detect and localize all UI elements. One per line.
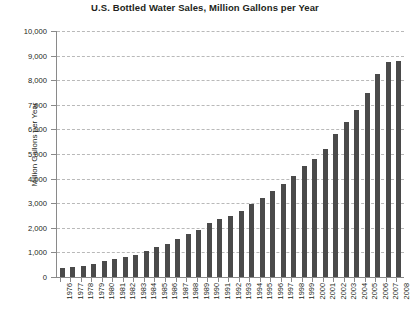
x-axis-tick <box>218 278 219 282</box>
x-axis-label: 1989 <box>202 283 211 299</box>
x-axis-label: 1994 <box>255 283 264 299</box>
x-axis-label: 1977 <box>76 283 85 299</box>
x-axis-tick <box>228 278 229 282</box>
y-axis-label: 10,000 <box>0 27 47 36</box>
y-axis-tick <box>51 129 57 130</box>
x-axis-label: 1990 <box>212 283 221 299</box>
x-axis-tick <box>91 278 92 282</box>
x-axis-tick <box>312 278 313 282</box>
x-axis-label: 1979 <box>97 283 106 299</box>
x-axis-tick <box>291 278 292 282</box>
bar <box>228 216 233 278</box>
bar <box>102 261 107 277</box>
bar <box>386 62 391 277</box>
y-axis-label: 9,000 <box>0 52 47 61</box>
y-axis-label: 3,000 <box>0 199 47 208</box>
bar <box>249 204 254 277</box>
bar <box>144 251 149 277</box>
y-axis-tick <box>51 203 57 204</box>
bar <box>60 268 65 277</box>
bar <box>91 264 96 277</box>
x-axis-label: 2005 <box>370 283 379 299</box>
bar <box>207 223 212 277</box>
bar <box>260 198 265 277</box>
x-axis-label: 1987 <box>181 283 190 299</box>
x-axis-label: 2002 <box>339 283 348 299</box>
x-axis-label: 1995 <box>265 283 274 299</box>
x-axis-tick <box>375 278 376 282</box>
bar <box>165 244 170 277</box>
x-axis-tick <box>249 278 250 282</box>
y-axis-tick <box>51 228 57 229</box>
x-axis-label: 2007 <box>391 283 400 299</box>
bar <box>302 166 307 277</box>
x-axis-label: 1993 <box>244 283 253 299</box>
bar <box>281 184 286 277</box>
bar <box>186 234 191 277</box>
x-axis-tick <box>281 278 282 282</box>
x-axis-tick <box>270 278 271 282</box>
x-axis-tick <box>302 278 303 282</box>
x-axis-label: 2006 <box>381 283 390 299</box>
bar <box>354 110 359 277</box>
x-axis-tick <box>365 278 366 282</box>
x-axis-tick <box>81 278 82 282</box>
x-axis-tick <box>60 278 61 282</box>
plot-area <box>57 31 404 277</box>
x-axis-label: 1988 <box>191 283 200 299</box>
x-axis-label: 1981 <box>118 283 127 299</box>
y-axis-label: 2,000 <box>0 224 47 233</box>
bar <box>81 266 86 277</box>
x-axis-label: 1982 <box>128 283 137 299</box>
x-axis-tick <box>323 278 324 282</box>
x-axis-label: 1991 <box>223 283 232 299</box>
x-axis-tick <box>344 278 345 282</box>
bar <box>217 219 222 277</box>
y-axis-label: 5,000 <box>0 150 47 159</box>
bar <box>270 191 275 277</box>
bar <box>196 230 201 277</box>
x-axis-tick <box>197 278 198 282</box>
x-axis-tick <box>333 278 334 282</box>
x-axis-tick <box>144 278 145 282</box>
y-axis-label: 8,000 <box>0 76 47 85</box>
x-axis-label: 1983 <box>139 283 148 299</box>
y-axis-label: 0 <box>0 273 47 282</box>
x-axis-label: 1976 <box>65 283 74 299</box>
x-axis-tick <box>207 278 208 282</box>
y-axis-tick <box>51 179 57 180</box>
x-axis-label: 1978 <box>86 283 95 299</box>
x-axis-tick <box>386 278 387 282</box>
y-axis-tick <box>51 56 57 57</box>
bar <box>323 149 328 277</box>
bar <box>312 159 317 277</box>
x-axis-label: 1998 <box>297 283 306 299</box>
x-axis-tick <box>396 278 397 282</box>
bar <box>396 61 401 277</box>
y-axis-tick <box>51 154 57 155</box>
y-axis-label: 4,000 <box>0 175 47 184</box>
bar <box>291 176 296 277</box>
x-axis-label: 1992 <box>234 283 243 299</box>
x-axis-tick <box>123 278 124 282</box>
x-axis-tick <box>133 278 134 282</box>
x-axis-label: 1997 <box>286 283 295 299</box>
y-axis-tick <box>51 31 57 32</box>
x-axis-tick <box>186 278 187 282</box>
bar <box>333 134 338 277</box>
y-axis-label: 6,000 <box>0 125 47 134</box>
x-axis-label: 1996 <box>276 283 285 299</box>
y-axis-tick <box>51 105 57 106</box>
x-axis-tick <box>112 278 113 282</box>
x-axis-labels: 1976197719781979198019811982198319841985… <box>57 283 404 309</box>
x-axis-label: 1980 <box>107 283 116 299</box>
bar <box>365 93 370 278</box>
x-axis-label: 1986 <box>170 283 179 299</box>
bar <box>175 239 180 277</box>
x-axis-tick <box>70 278 71 282</box>
x-axis-label: 2004 <box>360 283 369 299</box>
x-axis-tick <box>154 278 155 282</box>
bar <box>344 122 349 277</box>
x-axis-label: 2008 <box>402 283 410 299</box>
bar <box>70 267 75 277</box>
